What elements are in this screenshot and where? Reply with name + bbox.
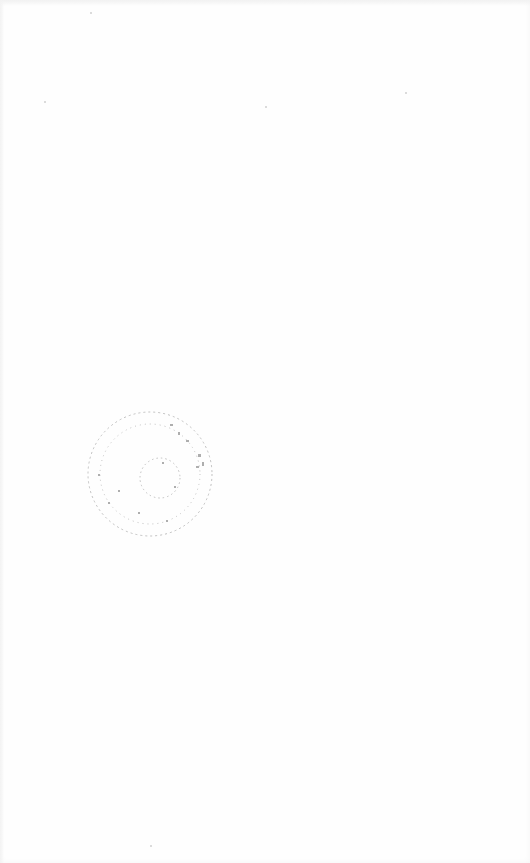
paper-speck bbox=[90, 12, 92, 14]
scanned-page bbox=[0, 0, 530, 863]
paper-speck bbox=[44, 101, 46, 103]
paper-speck bbox=[405, 92, 407, 94]
page-left-edge-shadow bbox=[0, 0, 4, 863]
page-top-edge-shadow bbox=[0, 0, 530, 6]
faded-stamp-seal bbox=[78, 402, 222, 546]
paper-speck bbox=[150, 845, 152, 847]
paper-speck bbox=[265, 106, 267, 108]
